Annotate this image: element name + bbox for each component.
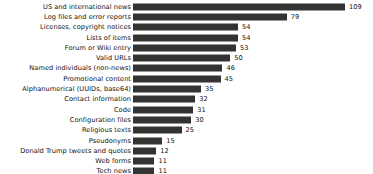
bar <box>133 24 238 31</box>
category-label: Religious texts <box>82 127 131 134</box>
category-label: Contact information <box>64 96 131 103</box>
category-label: Code <box>114 106 131 113</box>
value-label: 35 <box>205 86 214 93</box>
bar-and-value: 31 <box>133 106 206 113</box>
category-label: Web forms <box>95 158 131 165</box>
bar-row: Forum or Wiki entry53 <box>0 43 373 53</box>
bar-row: Configuration files30 <box>0 115 373 125</box>
bar-row: Named individuals (non-news)46 <box>0 63 373 73</box>
bar <box>133 55 230 62</box>
bar-row: Tech news11 <box>0 166 373 174</box>
bar-row: Pseudonyms15 <box>0 135 373 145</box>
bar-row: Lists of items54 <box>0 32 373 42</box>
bar-row: Alphanumerical (UUIDs, base64)35 <box>0 84 373 94</box>
bar-row: Religious texts25 <box>0 125 373 135</box>
category-label: Licenses, copyright notices <box>40 24 131 31</box>
bar-and-value: 30 <box>133 116 204 123</box>
value-label: 53 <box>240 44 249 51</box>
bar <box>133 127 182 134</box>
bar-and-value: 11 <box>133 168 167 174</box>
bar-and-value: 15 <box>133 137 175 144</box>
bar <box>133 158 154 165</box>
bar-and-value: 79 <box>133 13 299 20</box>
value-label: 50 <box>234 55 243 62</box>
bar-row: Donald Trump tweets and quotes12 <box>0 146 373 156</box>
value-label: 12 <box>160 147 169 154</box>
bar-and-value: 53 <box>133 44 249 51</box>
value-label: 109 <box>349 3 362 10</box>
bar-row: Log files and error reports79 <box>0 12 373 22</box>
bar <box>133 44 236 51</box>
category-label: Pseudonyms <box>89 137 131 144</box>
value-label: 11 <box>158 168 167 174</box>
bar <box>133 168 154 174</box>
category-label: Alphanumerical (UUIDs, base64) <box>22 86 131 93</box>
bar-and-value: 45 <box>133 75 233 82</box>
bar-and-value: 54 <box>133 34 251 41</box>
bar <box>133 3 345 10</box>
value-label: 32 <box>199 96 208 103</box>
category-label: Valid URLs <box>96 55 131 62</box>
category-label: Named individuals (non-news) <box>29 65 131 72</box>
category-label: Tech news <box>97 168 131 174</box>
value-label: 45 <box>225 75 234 82</box>
bar-and-value: 46 <box>133 65 235 72</box>
bar-row: Web forms11 <box>0 156 373 166</box>
category-label: Log files and error reports <box>44 13 131 20</box>
category-label: Forum or Wiki entry <box>65 44 131 51</box>
bar <box>133 34 238 41</box>
bar <box>133 106 193 113</box>
bar-row: Contact information32 <box>0 94 373 104</box>
bar <box>133 65 222 72</box>
bar-chart: US and international news109Log files an… <box>0 0 373 174</box>
bar-and-value: 11 <box>133 158 167 165</box>
bar-and-value: 25 <box>133 127 194 134</box>
bar-and-value: 109 <box>133 3 362 10</box>
bar-row: US and international news109 <box>0 2 373 12</box>
bar-and-value: 32 <box>133 96 208 103</box>
bar <box>133 75 221 82</box>
value-label: 54 <box>242 34 251 41</box>
plot-area: US and international news109Log files an… <box>0 0 373 174</box>
value-label: 15 <box>166 137 175 144</box>
bar-and-value: 35 <box>133 86 214 93</box>
value-label: 25 <box>186 127 195 134</box>
bar <box>133 13 287 20</box>
category-label: Promotional content <box>63 75 131 82</box>
value-label: 79 <box>291 13 300 20</box>
value-label: 46 <box>226 65 235 72</box>
bar <box>133 137 162 144</box>
bar <box>133 96 195 103</box>
category-label: US and international news <box>43 3 131 10</box>
bar <box>133 147 156 154</box>
bar-row: Promotional content45 <box>0 74 373 84</box>
value-label: 11 <box>158 158 167 165</box>
bar-row: Code31 <box>0 105 373 115</box>
value-label: 30 <box>195 116 204 123</box>
bar-row: Valid URLs50 <box>0 53 373 63</box>
bar-and-value: 54 <box>133 24 251 31</box>
category-label: Configuration files <box>70 116 131 123</box>
bar-and-value: 50 <box>133 55 243 62</box>
value-label: 54 <box>242 24 251 31</box>
category-label: Lists of items <box>86 34 131 41</box>
bar <box>133 116 191 123</box>
value-label: 31 <box>197 106 206 113</box>
bar-row: Licenses, copyright notices54 <box>0 22 373 32</box>
bar-and-value: 12 <box>133 147 169 154</box>
bar <box>133 86 201 93</box>
category-label: Donald Trump tweets and quotes <box>20 147 131 154</box>
